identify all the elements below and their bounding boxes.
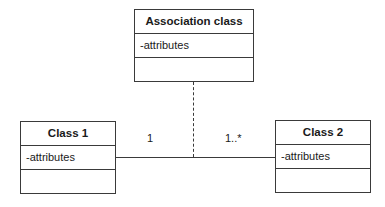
class1-attributes: -attributes: [21, 146, 115, 170]
class1-box: Class 1 -attributes: [20, 121, 116, 194]
class2-name: Class 2: [276, 121, 370, 145]
association-class-box: Association class -attributes: [134, 9, 254, 82]
association-class-attributes: -attributes: [135, 34, 253, 58]
class1-name: Class 1: [21, 122, 115, 146]
association-class-operations: [135, 58, 253, 82]
association-line: [116, 157, 275, 158]
association-class-connector: [193, 82, 194, 157]
class2-operations: [276, 169, 370, 193]
class1-multiplicity: 1: [147, 132, 153, 144]
class2-attributes: -attributes: [276, 145, 370, 169]
association-class-name: Association class: [135, 10, 253, 34]
class1-operations: [21, 170, 115, 194]
class2-box: Class 2 -attributes: [275, 120, 371, 193]
class2-multiplicity: 1..*: [225, 132, 242, 144]
